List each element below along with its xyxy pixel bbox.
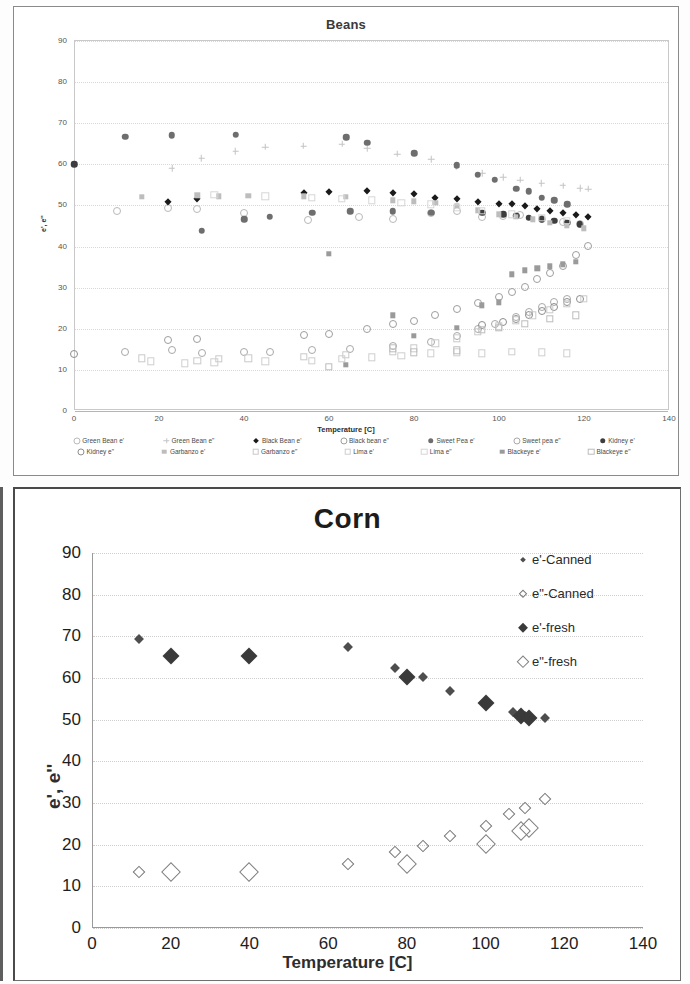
legend-item[interactable]: Sweet Pea e' xyxy=(427,436,474,445)
beans-plot-area xyxy=(74,40,669,410)
gridline-y-30 xyxy=(93,803,643,804)
legend-item[interactable]: Black bean e" xyxy=(340,436,389,445)
gridline-y-60 xyxy=(93,678,643,679)
legend-item[interactable]: Garbanzo e" xyxy=(252,447,297,456)
corn-x-axis-title: Temperature [C] xyxy=(15,953,680,973)
legend-item[interactable]: Green Bean e' xyxy=(73,436,124,445)
legend-marker-circle-open-icon xyxy=(340,437,347,444)
x-tick-label: 140 xyxy=(662,414,675,423)
gridline-y-90 xyxy=(75,41,668,42)
beans-chart-title: Beans xyxy=(14,17,678,32)
legend-marker-circle-filled-icon xyxy=(427,437,434,444)
legend-marker-circle-open-icon xyxy=(77,448,84,455)
x-tick-label: 100 xyxy=(471,934,499,954)
y-tick-label: 90 xyxy=(62,543,81,563)
legend-label: Lima e' xyxy=(353,448,374,455)
legend-label: Kidney e" xyxy=(86,448,114,455)
beans-chart-panel: Beans 0102030405060708090020406080100120… xyxy=(13,6,679,476)
marker-diamond-filled-small xyxy=(519,556,525,562)
legend-marker-square-open-icon xyxy=(252,448,259,455)
corn-chart-title: Corn xyxy=(15,503,680,535)
legend-label: Sweet Pea e' xyxy=(436,437,474,444)
gridline-y-0 xyxy=(93,928,643,929)
y-tick-label: 80 xyxy=(58,77,67,86)
legend-item[interactable]: e'-fresh xyxy=(517,620,594,635)
legend-item[interactable]: Black Bean e' xyxy=(253,436,302,445)
gridline-y-40 xyxy=(75,247,668,248)
legend-label: Garbanzo e" xyxy=(261,448,297,455)
legend-item[interactable]: Blackeye e' xyxy=(499,447,541,456)
y-tick-label: 0 xyxy=(63,406,67,415)
marker-circle-open xyxy=(77,448,84,455)
legend-item[interactable]: Blackeye e" xyxy=(587,447,630,456)
marker-square-open xyxy=(252,448,259,455)
gridline-y-70 xyxy=(75,123,668,124)
legend-marker-diamond-open-small-icon xyxy=(517,588,528,599)
marker-circle-open xyxy=(513,437,520,444)
legend-label: e'-fresh xyxy=(532,620,575,635)
y-tick-label: 50 xyxy=(58,200,67,209)
y-tick-label: 50 xyxy=(62,710,81,730)
marker-diamond-filled xyxy=(253,437,259,443)
y-tick-label: 80 xyxy=(62,585,81,605)
marker-square-open xyxy=(344,448,351,455)
legend-item[interactable]: e'-Canned xyxy=(517,552,594,567)
y-tick-label: 90 xyxy=(58,36,67,45)
legend-item[interactable]: Green Bean e" xyxy=(163,436,215,445)
y-tick-label: 30 xyxy=(58,282,67,291)
x-tick-label: 80 xyxy=(397,934,416,954)
beans-y-axis-title: e', e'' xyxy=(40,215,47,232)
legend-marker-square-filled-icon xyxy=(499,448,506,455)
x-tick-label: 120 xyxy=(550,934,578,954)
marker-square-open xyxy=(421,448,428,455)
gridline-y-20 xyxy=(93,845,643,846)
corn-x-axis-line xyxy=(93,927,643,928)
legend-label: Sweet pea e" xyxy=(522,437,560,444)
y-tick-label: 40 xyxy=(58,241,67,250)
corn-y-axis-title: e', e'' xyxy=(43,764,65,809)
beans-x-axis-title: Temperature [C] xyxy=(14,425,678,434)
page-left-edge xyxy=(0,487,3,981)
legend-marker-circle-open-icon xyxy=(513,437,520,444)
legend-item[interactable]: Kidney e' xyxy=(599,436,635,445)
legend-item[interactable]: Lima e" xyxy=(421,447,452,456)
marker-diamond-open-small xyxy=(518,589,527,598)
y-tick-label: 0 xyxy=(72,918,81,938)
gridline-y-50 xyxy=(93,720,643,721)
x-tick-label: 80 xyxy=(410,414,419,423)
y-tick-label: 10 xyxy=(58,364,67,373)
legend-label: e'-Canned xyxy=(532,552,592,567)
gridline-y-50 xyxy=(75,205,668,206)
legend-label: e"-fresh xyxy=(532,654,577,669)
legend-marker-circle-open-icon xyxy=(73,437,80,444)
legend-item[interactable]: e"-Canned xyxy=(517,586,594,601)
gridline-y-80 xyxy=(75,82,668,83)
legend-item[interactable]: Kidney e" xyxy=(77,447,114,456)
legend-marker-square-filled-icon xyxy=(161,448,168,455)
document-page: Beans 0102030405060708090020406080100120… xyxy=(0,0,690,984)
legend-label: Black bean e" xyxy=(349,437,389,444)
x-tick-label: 100 xyxy=(492,414,505,423)
legend-marker-square-open-icon xyxy=(344,448,351,455)
x-tick-label: 140 xyxy=(629,934,657,954)
x-tick-label: 20 xyxy=(161,934,180,954)
legend-marker-circle-filled-icon xyxy=(599,437,606,444)
beans-legend: Green Bean e'Green Bean e"Black Bean e'B… xyxy=(54,436,654,456)
x-tick-label: 120 xyxy=(577,414,590,423)
marker-plus xyxy=(163,438,169,444)
y-tick-label: 10 xyxy=(62,876,81,896)
marker-square-filled xyxy=(162,449,167,454)
gridline-y-10 xyxy=(75,370,668,371)
legend-marker-diamond-filled-icon xyxy=(253,437,260,444)
legend-marker-diamond-filled-small-icon xyxy=(517,554,528,565)
legend-item[interactable]: Sweet pea e" xyxy=(513,436,560,445)
marker-circle-filled xyxy=(600,438,606,444)
legend-item[interactable]: Garbanzo e' xyxy=(161,447,205,456)
legend-label: Green Bean e" xyxy=(172,437,215,444)
marker-circle-filled xyxy=(428,438,434,444)
legend-item[interactable]: e"-fresh xyxy=(517,654,594,669)
marker-square-filled xyxy=(500,449,505,454)
legend-item[interactable]: Lima e' xyxy=(344,447,374,456)
marker-diamond-open-large xyxy=(516,655,529,668)
legend-label: Lima e" xyxy=(430,448,452,455)
